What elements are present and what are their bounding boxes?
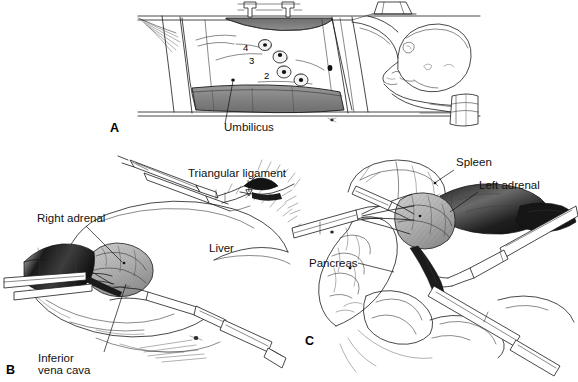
port-number-3: 3: [249, 55, 254, 66]
medical-illustration-figure: 4 3 2 Umbilicus: [0, 0, 578, 382]
label-inferior-vena-cava-line1: Inferior: [38, 352, 74, 364]
port-number-4: 4: [243, 42, 248, 53]
label-spleen: Spleen: [456, 156, 492, 168]
port-number-2: 2: [264, 70, 269, 81]
label-inferior-vena-cava-line2: vena cava: [38, 364, 91, 376]
label-liver: Liver: [209, 242, 234, 254]
left-adrenal-gland: [395, 193, 455, 249]
lateral-port-mark: [328, 65, 333, 71]
label-left-adrenal: Left adrenal: [479, 179, 540, 191]
lower-bolster-pad: [192, 85, 344, 113]
label-right-adrenal: Right adrenal: [37, 212, 105, 224]
label-pancreas: Pancreas: [309, 257, 358, 269]
trocar-port-4: [259, 40, 272, 51]
arm-board: [450, 94, 478, 126]
label-umbilicus: Umbilicus: [224, 121, 274, 133]
trocar-port-2: [277, 66, 291, 78]
trocar-port-1: [294, 74, 308, 86]
panel-letter-b: B: [6, 363, 15, 377]
panel-letter-c: C: [305, 334, 314, 348]
label-triangular-ligament: Triangular ligament: [188, 167, 287, 179]
panel-letter-a: A: [110, 121, 119, 135]
